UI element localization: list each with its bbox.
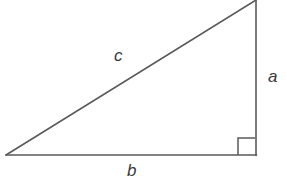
- hypotenuse-label: c: [114, 47, 123, 64]
- right-triangle-diagram: c a b: [0, 0, 287, 185]
- triangle-drawing: [0, 0, 287, 185]
- hypotenuse-line: [6, 0, 256, 155]
- horizontal-leg-label: b: [127, 162, 136, 179]
- right-angle-marker-icon: [238, 138, 255, 155]
- vertical-leg-label: a: [268, 68, 277, 85]
